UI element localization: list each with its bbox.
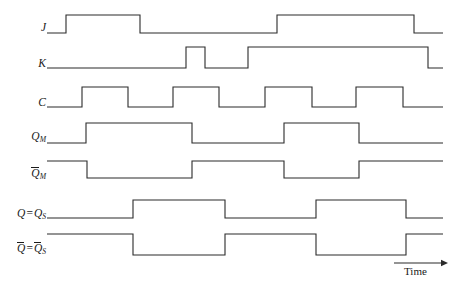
waveform-C [47, 87, 443, 107]
waveform-Qbar_M [47, 161, 443, 178]
time-axis-label: Time [404, 265, 427, 277]
waveform-Qbar_eq_QbarS [47, 234, 443, 255]
waveform-Q_M [47, 123, 443, 143]
waveform-Q_eq_QS [47, 200, 443, 218]
waveform-J [47, 15, 443, 33]
waveform-canvas [0, 0, 456, 293]
waveform-K [47, 47, 443, 68]
waveform-traces [47, 15, 443, 255]
timing-diagram: JKCQMQMQ=QSQ=QS Time [0, 0, 456, 293]
time-arrow-head [441, 260, 448, 266]
